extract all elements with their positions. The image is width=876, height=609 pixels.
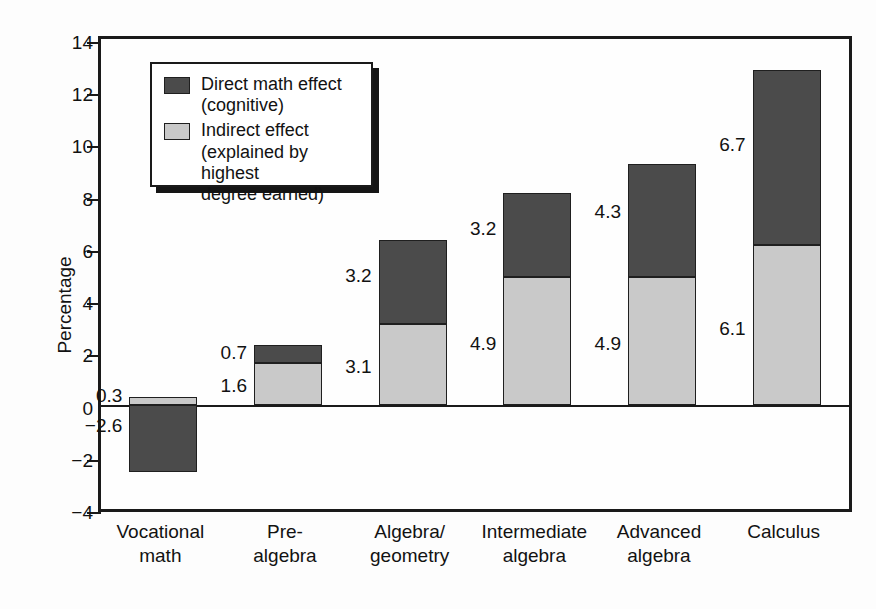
x-axis-category-label: Pre-algebra bbox=[223, 520, 348, 568]
bar-value-label-indirect: 4.9 bbox=[595, 334, 621, 353]
bar-value-label-indirect: 3.1 bbox=[345, 356, 371, 375]
x-axis-label-line2: algebra bbox=[503, 545, 566, 566]
y-axis-tick-label: 4 bbox=[82, 294, 93, 313]
bar-value-label-indirect: 0.3 bbox=[96, 385, 122, 404]
y-axis-tick-label: 10 bbox=[72, 137, 93, 156]
legend-swatch-indirect-icon bbox=[164, 123, 190, 140]
x-axis-category-label: Intermediatealgebra bbox=[472, 520, 597, 568]
x-axis-category-labels: VocationalmathPre-algebraAlgebra/geometr… bbox=[98, 520, 852, 590]
bar-group[interactable]: 3.13.2 bbox=[379, 39, 447, 509]
x-axis-category-label: Vocationalmath bbox=[98, 520, 223, 568]
x-axis-label-line1: Intermediate bbox=[482, 521, 588, 542]
y-axis-tick-label: −2 bbox=[71, 450, 93, 469]
x-axis-category-label: Calculus bbox=[721, 520, 846, 544]
x-axis-label-line1: Algebra/ bbox=[374, 521, 445, 542]
bar-segment-direct[interactable] bbox=[753, 70, 821, 245]
x-axis-label-line1: Vocational bbox=[116, 521, 204, 542]
bar-value-label-indirect: 4.9 bbox=[470, 334, 496, 353]
legend-swatch-direct-icon bbox=[164, 77, 190, 94]
bar-segment-direct[interactable] bbox=[628, 164, 696, 276]
x-axis-label-line2: math bbox=[139, 545, 181, 566]
y-axis-tick-label: 14 bbox=[72, 33, 93, 52]
bar-value-label-direct: −2.6 bbox=[85, 415, 123, 434]
chart-legend: Direct math effect (cognitive) Indirect … bbox=[150, 62, 373, 187]
bar-segment-indirect[interactable] bbox=[503, 277, 571, 405]
y-axis-tick-label: 8 bbox=[82, 189, 93, 208]
x-axis-category-label: Advancedalgebra bbox=[597, 520, 722, 568]
bar-segment-direct[interactable] bbox=[379, 240, 447, 324]
bar-value-label-direct: 6.7 bbox=[719, 134, 745, 153]
legend-label-indirect-line2: (explained by highest bbox=[201, 142, 308, 183]
y-axis-tick-label: 6 bbox=[82, 241, 93, 260]
bar-value-label-indirect: 1.6 bbox=[221, 375, 247, 394]
legend-label-direct-line2: (cognitive) bbox=[201, 95, 284, 115]
y-axis-tick-label: −4 bbox=[71, 503, 93, 522]
bar-segment-indirect[interactable] bbox=[254, 363, 322, 405]
y-axis-tick-label: 12 bbox=[72, 85, 93, 104]
y-axis-title: Percentage bbox=[54, 256, 76, 353]
bar-segment-direct[interactable] bbox=[503, 193, 571, 277]
legend-label-indirect-line1: Indirect effect bbox=[201, 120, 309, 140]
bar-value-label-indirect: 6.1 bbox=[719, 319, 745, 338]
bar-value-label-direct: 4.3 bbox=[595, 202, 621, 221]
legend-label-indirect: Indirect effect (explained by highest de… bbox=[201, 120, 361, 205]
bar-group[interactable]: 4.94.3 bbox=[628, 39, 696, 509]
legend-label-indirect-line3: degree earned) bbox=[201, 184, 324, 204]
x-axis-label-line1: Advanced bbox=[617, 521, 702, 542]
stacked-bar-chart-figure: Percentage 0.3−2.61.60.73.13.24.93.24.94… bbox=[0, 0, 876, 609]
zero-baseline bbox=[101, 405, 849, 407]
bar-segment-indirect[interactable] bbox=[379, 324, 447, 405]
legend-item-direct: Direct math effect (cognitive) bbox=[164, 74, 361, 116]
x-axis-label-line2: algebra bbox=[253, 545, 316, 566]
bar-segment-indirect[interactable] bbox=[753, 245, 821, 404]
bar-segment-indirect[interactable] bbox=[129, 397, 197, 405]
x-axis-label-line2: algebra bbox=[627, 545, 690, 566]
bar-group[interactable]: 4.93.2 bbox=[503, 39, 571, 509]
y-axis-tick-label: 0 bbox=[82, 398, 93, 417]
x-axis-category-label: Algebra/geometry bbox=[347, 520, 472, 568]
x-axis-label-line2: geometry bbox=[370, 545, 449, 566]
bar-value-label-direct: 3.2 bbox=[470, 219, 496, 238]
x-axis-label-line1: Pre- bbox=[267, 521, 303, 542]
legend-item-indirect: Indirect effect (explained by highest de… bbox=[164, 120, 361, 205]
bar-value-label-direct: 3.2 bbox=[345, 266, 371, 285]
legend-label-direct-line1: Direct math effect bbox=[201, 74, 342, 94]
x-axis-label-line1: Calculus bbox=[747, 521, 820, 542]
bar-segment-direct[interactable] bbox=[129, 405, 197, 473]
legend-label-direct: Direct math effect (cognitive) bbox=[201, 74, 342, 116]
bar-segment-direct[interactable] bbox=[254, 345, 322, 363]
y-axis-tick-label: 2 bbox=[82, 346, 93, 365]
bar-value-label-direct: 0.7 bbox=[221, 343, 247, 362]
bar-group[interactable]: 6.16.7 bbox=[753, 39, 821, 509]
bar-segment-indirect[interactable] bbox=[628, 277, 696, 405]
